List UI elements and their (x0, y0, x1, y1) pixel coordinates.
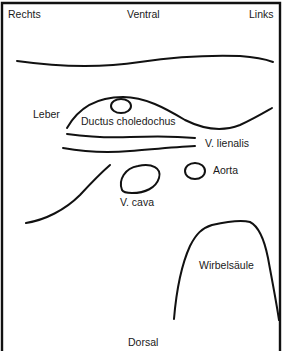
abdominal-wall-line (17, 56, 273, 66)
splenic-vein-lower-line (63, 146, 195, 152)
label-aorta: Aorta (213, 165, 238, 176)
label-spine: Wirbelsäule (199, 260, 254, 271)
bile-duct-circle (111, 99, 131, 113)
cross-section-diagram (0, 0, 284, 351)
label-bile-duct: Ductus choledochus (81, 116, 176, 127)
aorta-circle (185, 163, 205, 179)
orientation-label-left-side: Links (249, 9, 274, 20)
orientation-label-ventral: Ventral (127, 9, 160, 20)
vena-cava-ellipse (121, 165, 160, 193)
label-vena-cava: V. cava (120, 197, 154, 208)
label-liver: Leber (33, 109, 60, 120)
liver-posterior-contour (26, 165, 110, 223)
splenic-vein-upper-line (67, 134, 195, 138)
orientation-label-dorsal: Dorsal (128, 337, 158, 348)
orientation-label-right-side: Rechts (8, 9, 41, 20)
label-splenic-vein: V. lienalis (205, 138, 249, 149)
